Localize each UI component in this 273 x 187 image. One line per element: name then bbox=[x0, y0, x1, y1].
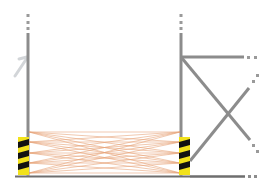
left-guard bbox=[18, 137, 29, 175]
arrow-icon bbox=[15, 57, 27, 76]
floor-dots-icon bbox=[248, 175, 257, 178]
light-beams bbox=[29, 132, 180, 173]
right-guard bbox=[179, 137, 190, 175]
cross-bracing bbox=[181, 57, 250, 161]
light-curtain-diagram bbox=[0, 0, 273, 187]
